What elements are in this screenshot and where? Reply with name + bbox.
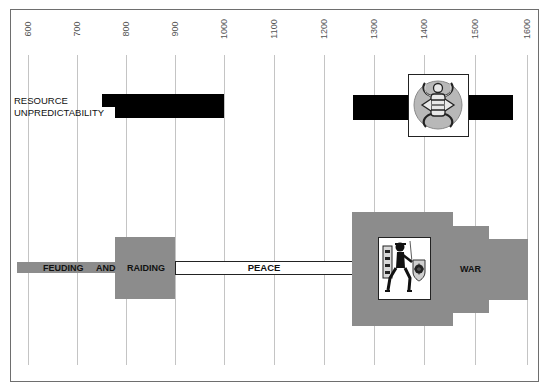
peace-bar: PEACE (175, 261, 353, 275)
peace-label: PEACE (248, 262, 281, 273)
war-label: WAR (460, 263, 481, 275)
gridline-1600 (527, 55, 528, 365)
tick-1100: 1100 (267, 14, 281, 44)
tick-1300: 1300 (367, 14, 381, 44)
tick-1200: 1200 (317, 14, 331, 44)
tick-1400: 1400 (417, 14, 431, 44)
tick-1000: 1000 (217, 14, 231, 44)
resource-label-line2: UNPREDICTABILITY (14, 107, 104, 119)
medallion-figure-icon (409, 75, 467, 135)
feuding-label: FEUDING (43, 262, 84, 274)
tick-600: 600 (21, 14, 35, 44)
tick-1600: 1600 (520, 14, 534, 44)
warrior-figure-icon (379, 238, 429, 298)
tick-800: 800 (119, 14, 133, 44)
resource-label-line1: RESOURCE (14, 95, 68, 107)
gridline-1100 (274, 55, 275, 365)
raiding-label: RAIDING (127, 262, 165, 274)
tick-700: 700 (70, 14, 84, 44)
resource-bar-early-bottom (115, 106, 224, 118)
gridline-1200 (324, 55, 325, 365)
and-label: AND (96, 262, 116, 274)
tick-900: 900 (168, 14, 182, 44)
gridline-1000 (224, 55, 225, 365)
medallion-image (408, 74, 469, 137)
war-block-step2 (488, 239, 528, 300)
warrior-image (378, 237, 431, 300)
tick-1500: 1500 (468, 14, 482, 44)
gridline-700 (77, 55, 78, 365)
